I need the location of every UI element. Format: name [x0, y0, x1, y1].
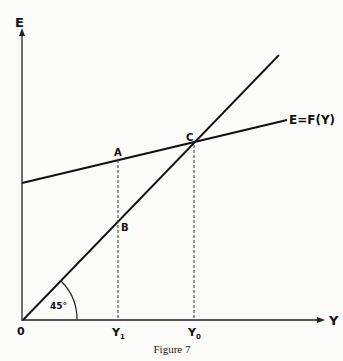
point-c-label: C	[186, 132, 193, 143]
y-axis-label: Y	[328, 313, 339, 328]
ef-y-line	[22, 120, 287, 183]
diagram-canvas: E Y 0 E=F(Y) 45° A B C Y1 Y0 Figure 7	[0, 0, 343, 361]
point-b-label: B	[121, 222, 129, 233]
y1-tick-label: Y1	[111, 326, 125, 341]
y0-tick-label: Y0	[187, 326, 201, 341]
curve-label: E=F(Y)	[289, 113, 335, 127]
e-axis-label: E	[15, 15, 24, 30]
point-a-label: A	[114, 147, 122, 158]
angle-label: 45°	[50, 301, 67, 311]
forty-five-degree-line	[23, 55, 279, 320]
origin-label: 0	[17, 325, 25, 338]
y-axis-arrow-icon	[317, 317, 325, 323]
figure-caption: Figure 7	[154, 343, 191, 355]
